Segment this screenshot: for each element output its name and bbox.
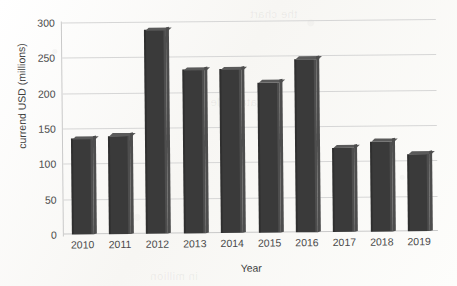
y-tick-label: 100	[39, 158, 57, 170]
bar-chart: currend USD (millions) 300 250 200 150 1…	[0, 0, 457, 286]
x-tick-label-2017: 2017	[326, 236, 362, 252]
bar-2016[interactable]	[294, 59, 318, 232]
bar-2010[interactable]	[71, 139, 94, 235]
bar-slot-2013	[175, 21, 213, 233]
x-tick-label-2014: 2014	[214, 237, 250, 253]
bar-slot-2014	[212, 21, 250, 233]
x-tick-label-2016: 2016	[289, 236, 325, 252]
bar-2012[interactable]	[144, 30, 168, 234]
x-tick-label-2011: 2011	[102, 238, 138, 254]
y-tick-label: 150	[38, 123, 56, 135]
x-axis-tick-labels: 2010 2011 2012 2013 2014 2015 2016 2017 …	[64, 235, 438, 255]
bar-2015[interactable]	[257, 82, 280, 233]
x-tick-label-2018: 2018	[364, 235, 400, 251]
x-tick-label-2015: 2015	[252, 236, 288, 252]
bar-2018[interactable]	[370, 141, 393, 231]
bar-slot-2016	[287, 20, 325, 232]
x-tick-label-2012: 2012	[139, 238, 175, 254]
y-tick-label: 300	[37, 17, 55, 29]
y-tick-label: 250	[38, 52, 56, 64]
x-tick-label-2013: 2013	[177, 237, 213, 253]
bar-slot-2011	[100, 22, 138, 234]
plot-area	[62, 19, 438, 235]
y-tick-label: 0	[51, 229, 57, 241]
x-tick-label-2010: 2010	[65, 238, 101, 254]
bar-slot-2018	[362, 19, 400, 231]
x-axis-title: Year	[64, 260, 438, 276]
bar-2011[interactable]	[108, 135, 131, 234]
bar-slot-2010	[63, 22, 101, 234]
bar-slot-2019	[399, 19, 437, 231]
bar-series	[62, 19, 438, 235]
bar-2017[interactable]	[332, 147, 355, 232]
bar-slot-2012	[137, 22, 175, 234]
y-tick-label: 50	[45, 193, 57, 205]
bar-slot-2017	[324, 20, 362, 232]
y-tick-label: 200	[38, 87, 56, 99]
bar-2014[interactable]	[220, 69, 244, 233]
bar-2019[interactable]	[407, 154, 430, 232]
bar-2013[interactable]	[182, 69, 206, 233]
bar-slot-2015	[250, 20, 288, 232]
y-axis-tick-labels: 300 250 200 150 100 50 0	[0, 2, 57, 286]
x-tick-label-2019: 2019	[401, 235, 437, 251]
